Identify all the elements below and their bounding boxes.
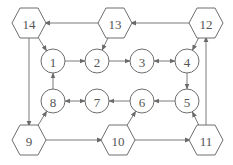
node-13: 13 (98, 8, 132, 38)
node-label: 13 (109, 17, 122, 32)
edges-layer (29, 23, 206, 140)
edge-14-to-1 (38, 37, 47, 51)
node-6: 6 (130, 89, 154, 113)
node-label: 2 (94, 55, 101, 70)
node-label: 8 (50, 95, 57, 110)
node-4: 4 (175, 49, 199, 73)
node-12: 12 (189, 8, 223, 38)
node-7: 7 (85, 89, 109, 113)
edge-9-to-8 (38, 111, 47, 126)
node-10: 10 (101, 125, 135, 155)
node-3: 3 (130, 49, 154, 73)
node-label: 11 (200, 134, 213, 149)
node-label: 14 (23, 17, 37, 32)
node-label: 9 (26, 134, 33, 149)
node-11: 11 (189, 125, 223, 155)
node-5: 5 (175, 89, 199, 113)
node-8: 8 (41, 89, 65, 113)
node-label: 5 (184, 95, 191, 110)
node-label: 3 (139, 55, 146, 70)
node-label: 10 (112, 134, 125, 149)
node-9: 9 (12, 125, 46, 155)
node-label: 7 (94, 95, 101, 110)
node-label: 6 (139, 95, 146, 110)
node-2: 2 (85, 49, 109, 73)
node-1: 1 (41, 49, 65, 73)
edge-10-to-6 (127, 111, 136, 126)
node-label: 4 (184, 55, 191, 70)
node-14: 14 (12, 8, 46, 38)
edge-11-to-5 (192, 112, 199, 126)
nodes-layer: 1234567891011121314 (12, 8, 223, 155)
directed-graph-diagram: 1234567891011121314 (0, 0, 233, 165)
edge-12-to-4 (192, 37, 199, 51)
node-label: 1 (50, 55, 57, 70)
node-label: 12 (200, 17, 213, 32)
edge-13-to-2 (102, 37, 108, 50)
